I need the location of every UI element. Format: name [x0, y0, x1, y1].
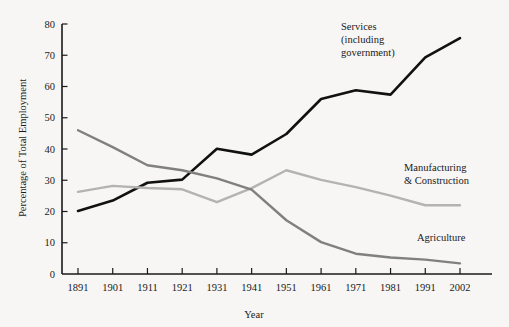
chart-canvas: Percentage of Total Employment 010203040…	[0, 0, 509, 327]
manufacturing-annotation: Manufacturing& Construction	[404, 162, 470, 186]
series-line-services-including-government	[78, 38, 460, 211]
y-tick-label-70: 70	[45, 50, 56, 61]
x-tick-label-1891: 1891	[68, 282, 89, 293]
x-tick-label-1991: 1991	[415, 282, 436, 293]
x-tick-label-1961: 1961	[311, 282, 332, 293]
y-tick-label-40: 40	[45, 144, 56, 155]
y-tick-label-0: 0	[50, 269, 55, 280]
x-tick-label-1931: 1931	[206, 282, 227, 293]
y-tick-label-10: 10	[45, 237, 56, 248]
x-tick-label-1981: 1981	[380, 282, 401, 293]
employment-share-line-chart: Percentage of Total Employment 010203040…	[0, 0, 509, 327]
x-tick-label-1901: 1901	[102, 282, 123, 293]
y-tick-label-30: 30	[45, 175, 56, 186]
x-tick-label-1951: 1951	[276, 282, 297, 293]
x-axis-tick-marks	[78, 268, 460, 274]
y-tick-label-50: 50	[45, 112, 56, 123]
series-annotations-group: Services(includinggovernment)Manufacturi…	[341, 21, 470, 243]
x-tick-label-2002: 2002	[450, 282, 471, 293]
y-tick-label-80: 80	[45, 19, 56, 30]
agriculture-annotation: Agriculture	[417, 232, 466, 243]
series-line-agriculture	[78, 130, 460, 263]
y-tick-label-60: 60	[45, 81, 56, 92]
y-axis-tick-marks	[62, 24, 68, 243]
y-tick-label-20: 20	[45, 206, 56, 217]
x-tick-label-1971: 1971	[345, 282, 366, 293]
x-tick-label-1941: 1941	[241, 282, 262, 293]
x-tick-label-1921: 1921	[172, 282, 193, 293]
y-axis-title: Percentage of Total Employment	[17, 79, 28, 217]
x-tick-label-1911: 1911	[137, 282, 158, 293]
x-axis-tick-labels: 1891190119111921193119411951196119711981…	[68, 282, 471, 293]
y-axis-tick-labels: 01020304050607080	[45, 19, 56, 280]
series-line-manufacturing-construction	[78, 170, 460, 205]
data-series-group	[78, 38, 460, 263]
services-annotation: Services(includinggovernment)	[341, 21, 395, 59]
x-axis-title: Year	[244, 309, 264, 320]
